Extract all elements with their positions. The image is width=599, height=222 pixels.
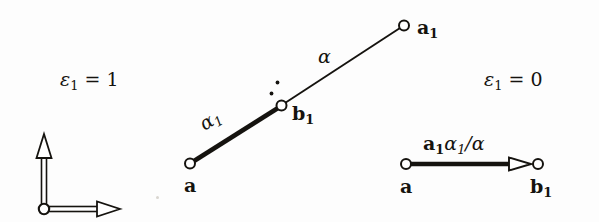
origin-node [39,204,49,214]
x-axis-arrowhead [97,202,120,217]
node-label-a-left-text: a [184,174,196,196]
dot-lower-icon [270,92,274,96]
condition-value-left: 1 [106,68,118,90]
node-label-a-right: a [400,177,412,196]
x-axis-shaft [44,207,101,212]
left-path-edges [194,28,400,161]
node-a [185,159,195,169]
edge-label-bold-a-sub: 1 [435,142,444,157]
epsilon-symbol-right: ε [484,68,494,90]
edge-contraction-figure: ε1 = 1 ε1 = 0 a b1 a1 α1 α a1α1/α a b1 [0,0,599,222]
edge-b1-a1 [285,28,400,103]
node-label-b1-right: b1 [530,177,552,200]
node-label-b1-right-text: b [530,175,543,197]
node-label-b1-left: b1 [292,104,314,127]
edge-weight-alpha-symbol: α [318,45,331,67]
node-label-a1-left-sub: 1 [429,26,438,41]
condition-value-right: 0 [530,68,542,90]
node-b1 [277,101,287,111]
scan-speck [156,196,159,199]
equals-left: = [78,68,106,90]
edge-label-denominator: α [472,132,485,154]
node-label-b1-left-sub: 1 [305,112,314,127]
node-label-b1-left-text: b [292,102,305,124]
coordinate-frame [37,134,121,217]
right-segment [401,158,543,171]
node-label-a-right-text: a [400,175,412,197]
condition-label-right: ε1 = 0 [484,70,543,93]
node-label-b1-right-sub: 1 [543,185,552,200]
edge-label-alpha: α [444,132,457,154]
edge-weight-alpha: α [318,47,331,66]
y-axis-arrowhead [37,134,52,158]
equals-right: = [502,68,530,90]
diagonal-dots-mark [270,81,280,96]
node-label-a1-left-text: a [417,16,429,38]
epsilon-symbol-left: ε [60,68,70,90]
dot-upper-icon [276,81,280,85]
node-a1 [399,21,409,31]
node-a-right [401,159,411,169]
edge-label-bold-a: a [423,132,435,154]
node-b1-right [533,159,543,169]
condition-label-left: ε1 = 1 [60,70,119,93]
edge-arrowhead [509,158,531,171]
node-label-a-left: a [184,176,196,195]
edge-label-contracted: a1α1/α [423,134,485,157]
node-label-a1-left: a1 [417,18,438,41]
